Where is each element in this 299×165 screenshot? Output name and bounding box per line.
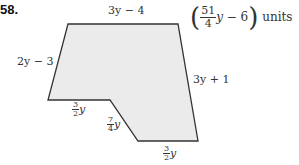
side-label-lower-left: 3 2 y bbox=[72, 101, 85, 118]
side-label-right: 3y + 1 bbox=[193, 73, 229, 86]
side-label-bottom: 3 2 y bbox=[163, 145, 176, 162]
polygon-shape bbox=[48, 24, 198, 141]
left-paren: ( bbox=[190, 2, 200, 32]
perimeter-label: ( 51 4 y − 6) units bbox=[190, 2, 293, 32]
side-label-top: 3y − 4 bbox=[108, 4, 144, 17]
fraction: 51 4 bbox=[200, 5, 216, 30]
right-paren: ) bbox=[248, 2, 258, 32]
side-label-left: 2y − 3 bbox=[17, 55, 53, 68]
side-label-slant: 7 4 y bbox=[107, 116, 120, 133]
